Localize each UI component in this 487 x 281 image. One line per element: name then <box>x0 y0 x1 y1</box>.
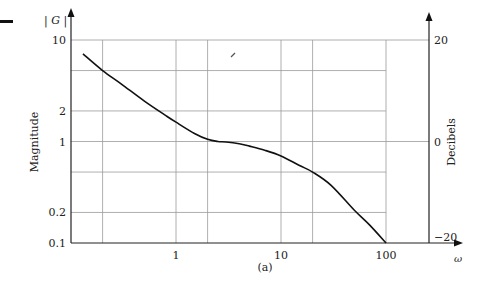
figure-caption: (a) <box>257 261 272 274</box>
y-axis-label: Magnitude <box>28 112 41 173</box>
bode-magnitude-chart: 11010010210.20.1200−20 | G | Magnitude D… <box>0 0 487 281</box>
y2-tick-label: 0 <box>434 136 441 149</box>
grid-lines <box>71 40 429 243</box>
x-tick-label: 10 <box>274 249 288 262</box>
stray-mark <box>231 53 235 57</box>
y-tick-label: 10 <box>52 34 66 47</box>
x-axis-label: ω <box>454 253 462 264</box>
y-tick-label: 0.2 <box>49 206 67 219</box>
y2-axis-label: Decibels <box>445 118 458 166</box>
corner-mark <box>0 20 13 23</box>
y-tick-label: 1 <box>59 136 66 149</box>
x-axis-arrow-icon <box>454 240 463 247</box>
y2-axis-arrow-icon <box>426 12 433 21</box>
axes <box>71 12 456 243</box>
y2-tick-label: −20 <box>434 231 457 244</box>
y-tick-label: 0.1 <box>49 237 67 250</box>
x-tick-label: 100 <box>376 249 397 262</box>
y2-tick-label: 20 <box>434 34 448 47</box>
y-tick-label: 2 <box>59 105 66 118</box>
x-tick-label: 1 <box>173 249 180 262</box>
y-axis-arrow-icon <box>68 8 75 17</box>
tick-labels: 11010010210.20.1200−20 <box>49 34 458 262</box>
y-axis-top-label: | G | <box>44 14 67 28</box>
magnitude-curve <box>83 54 386 243</box>
